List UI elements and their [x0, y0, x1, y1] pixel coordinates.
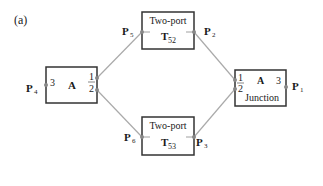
block-t53[interactable]: Two-port T 53 — [140, 117, 196, 155]
junction-subtitle: Junction — [245, 92, 279, 103]
svg-text:P: P — [122, 25, 129, 37]
point-p3: P 3 — [196, 136, 208, 150]
point-p1: P 1 — [292, 80, 304, 94]
svg-text:P: P — [204, 25, 211, 37]
block-t52-title: Two-port — [149, 15, 186, 26]
point-p4: P 4 — [26, 82, 38, 96]
block-t52[interactable]: Two-port T 52 — [140, 12, 196, 49]
diagram-canvas: (a) A 3 1 2 Two-port T 52 Two-port T 53 — [0, 0, 323, 186]
svg-text:6: 6 — [132, 137, 136, 145]
svg-text:4: 4 — [34, 88, 38, 96]
block-junction[interactable]: 1 2 A 3 Junction — [233, 70, 288, 106]
svg-text:P: P — [124, 131, 131, 143]
block-t52-subscript: 52 — [168, 36, 176, 45]
svg-text:3: 3 — [204, 142, 208, 150]
svg-text:P: P — [26, 82, 33, 94]
wire-t53-to-junction2 — [194, 89, 235, 137]
block-a-port1-label: 1 — [89, 71, 94, 82]
svg-text:5: 5 — [130, 31, 134, 39]
block-a[interactable]: A 3 1 2 — [44, 67, 99, 103]
block-a-port3-label: 3 — [50, 77, 55, 88]
block-t53-subscript: 53 — [168, 142, 176, 151]
block-t53-title: Two-port — [149, 120, 186, 131]
junction-title: A — [257, 75, 265, 86]
junction-port1-label: 1 — [238, 72, 243, 83]
panel-label: (a) — [14, 13, 27, 27]
port-node-junction2[interactable] — [233, 87, 237, 91]
port-node-t53-in[interactable] — [140, 135, 144, 139]
port-node-junction3[interactable] — [284, 85, 288, 89]
block-a-port2-label: 2 — [89, 83, 94, 94]
wire-a2-to-t53 — [97, 90, 142, 137]
point-p5: P 5 — [122, 25, 134, 39]
point-p6: P 6 — [124, 131, 136, 145]
port-node-a1[interactable] — [95, 76, 99, 80]
port-node-a2[interactable] — [95, 88, 99, 92]
block-a-title: A — [68, 79, 76, 91]
point-p2: P 2 — [204, 25, 216, 39]
wire-t52-to-junction1 — [194, 32, 235, 80]
wire-a1-to-t52 — [97, 32, 142, 78]
svg-text:1: 1 — [300, 86, 304, 94]
svg-text:2: 2 — [212, 31, 216, 39]
junction-port3-label: 3 — [276, 75, 281, 86]
svg-text:P: P — [292, 80, 299, 92]
port-node-a3[interactable] — [44, 83, 48, 87]
port-node-t52-out[interactable] — [192, 30, 196, 34]
port-node-junction1[interactable] — [233, 78, 237, 82]
svg-text:P: P — [196, 136, 203, 148]
port-node-t52-in[interactable] — [140, 30, 144, 34]
junction-port2-label: 2 — [238, 83, 243, 94]
